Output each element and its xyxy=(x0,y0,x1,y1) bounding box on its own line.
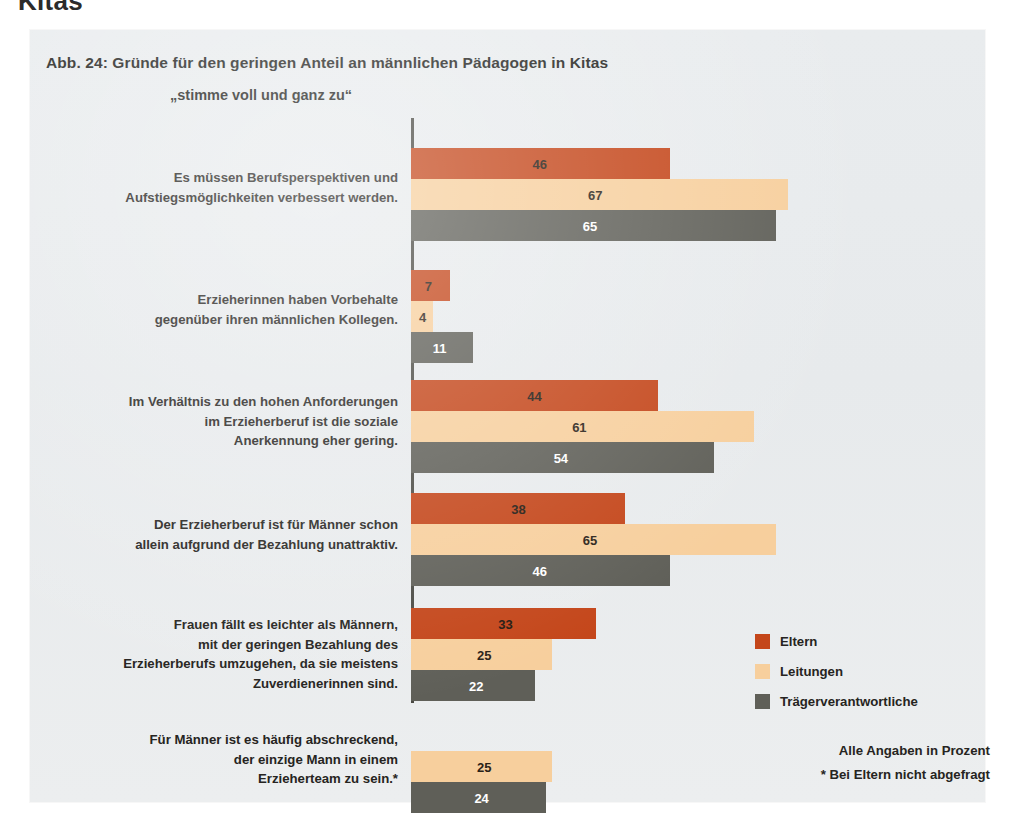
bar-leitungen-3: 65 xyxy=(411,524,776,555)
bar-eltern-1: 7 xyxy=(411,270,450,301)
legend-label: Leitungen xyxy=(780,664,843,679)
bar-leitungen-5: 25 xyxy=(411,751,552,782)
bar-trägerverantwortliche-5: 24 xyxy=(411,782,546,813)
bar-eltern-0: 46 xyxy=(411,148,670,179)
bar-value-label: 61 xyxy=(572,419,586,434)
legend-swatch-icon xyxy=(755,634,770,649)
category-label-line: mit der geringen Bezahlung des xyxy=(38,635,398,655)
bar-value-label: 33 xyxy=(498,616,512,631)
category-label-line: Erzieherteam zu sein.* xyxy=(38,769,398,789)
legend-label: Eltern xyxy=(780,634,817,649)
bar-trägerverantwortliche-1: 11 xyxy=(411,332,473,363)
category-label-line: Aufstiegsmöglichkeiten verbessert werden… xyxy=(38,188,398,208)
legend-label: Trägerverantwortliche xyxy=(780,694,918,709)
bar-value-label: 24 xyxy=(474,790,488,805)
legend-item-traeger: Trägerverantwortliche xyxy=(755,694,918,709)
bar-value-label: 54 xyxy=(554,450,568,465)
bar-value-label: 67 xyxy=(588,187,602,202)
bar-trägerverantwortliche-3: 46 xyxy=(411,555,670,586)
bar-leitungen-0: 67 xyxy=(411,179,788,210)
category-label: Für Männer ist es häufig abschreckend,de… xyxy=(38,730,398,789)
category-label-line: im Erzieherberuf ist die soziale xyxy=(38,412,398,432)
category-label-line: Erzieherinnen haben Vorbehalte xyxy=(38,290,398,310)
bar-value-label: 11 xyxy=(433,340,447,355)
legend-item-leitungen: Leitungen xyxy=(755,664,918,679)
bar-value-label: 46 xyxy=(533,563,547,578)
bar-value-label: 65 xyxy=(583,532,597,547)
footnote: * Bei Eltern nicht abgefragt xyxy=(710,767,990,782)
chart-legend: ElternLeitungenTrägerverantwortliche xyxy=(755,634,918,724)
unit-note: Alle Angaben in Prozent xyxy=(710,743,990,758)
bar-value-label: 25 xyxy=(477,759,491,774)
bar-value-label: 25 xyxy=(477,647,491,662)
bar-value-label: 44 xyxy=(527,388,541,403)
category-label: Erzieherinnen haben Vorbehaltegegenüber … xyxy=(38,290,398,329)
category-label-line: allein aufgrund der Bezahlung unattrakti… xyxy=(38,535,398,555)
bar-value-label: 7 xyxy=(425,278,432,293)
category-label-line: Im Verhältnis zu den hohen Anforderungen xyxy=(38,392,398,412)
bar-value-label: 22 xyxy=(469,678,483,693)
category-label-line: Erzieherberufs umzugehen, da sie meisten… xyxy=(38,654,398,674)
legend-swatch-icon xyxy=(755,664,770,679)
category-label-line: der einzige Mann in einem xyxy=(38,750,398,770)
bar-value-label: 38 xyxy=(511,501,525,516)
category-label-line: gegenüber ihren männlichen Kollegen. xyxy=(38,310,398,330)
bar-eltern-4: 33 xyxy=(411,608,596,639)
bar-trägerverantwortliche-2: 54 xyxy=(411,442,714,473)
bar-value-label: 65 xyxy=(583,218,597,233)
bar-eltern-3: 38 xyxy=(411,493,625,524)
legend-swatch-icon xyxy=(755,694,770,709)
category-label: Im Verhältnis zu den hohen Anforderungen… xyxy=(38,392,398,451)
bar-value-label: 4 xyxy=(419,309,426,324)
bar-value-label: 46 xyxy=(533,156,547,171)
category-label-line: Frauen fällt es leichter als Männern, xyxy=(38,615,398,635)
category-label: Frauen fällt es leichter als Männern,mit… xyxy=(38,615,398,693)
legend-item-eltern: Eltern xyxy=(755,634,918,649)
bar-leitungen-1: 4 xyxy=(411,301,433,332)
category-label: Es müssen Berufsperspektiven undAufstieg… xyxy=(38,168,398,207)
bar-trägerverantwortliche-4: 22 xyxy=(411,670,535,701)
category-label-line: Für Männer ist es häufig abschreckend, xyxy=(38,730,398,750)
category-label: Der Erzieherberuf ist für Männer schonal… xyxy=(38,515,398,554)
category-label-line: Anerkennung eher gering. xyxy=(38,431,398,451)
bar-eltern-2: 44 xyxy=(411,380,658,411)
figure-panel: Abb. 24: Gründe für den geringen Anteil … xyxy=(30,30,985,802)
bar-leitungen-4: 25 xyxy=(411,639,552,670)
category-label-line: Zuverdienerinnen sind. xyxy=(38,674,398,694)
cropped-page-header-word: Kitas xyxy=(18,0,83,10)
bar-leitungen-2: 61 xyxy=(411,411,754,442)
category-label-line: Der Erzieherberuf ist für Männer schon xyxy=(38,515,398,535)
category-label-line: Es müssen Berufsperspektiven und xyxy=(38,168,398,188)
bar-trägerverantwortliche-0: 65 xyxy=(411,210,776,241)
